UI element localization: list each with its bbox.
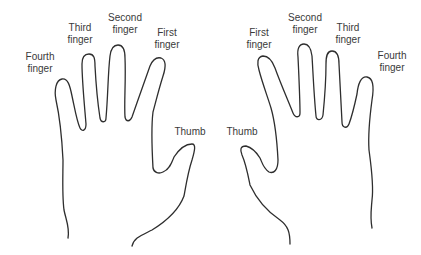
label-text: finger	[146, 39, 188, 51]
label-left-thumb: Thumb	[170, 126, 210, 138]
label-left-second-finger: Second finger	[102, 12, 148, 36]
label-text: finger	[60, 34, 100, 46]
label-text: Second	[282, 12, 328, 24]
label-text: finger	[238, 39, 280, 51]
label-text: Fourth	[20, 51, 60, 63]
label-text: First	[238, 27, 280, 39]
label-left-third-finger: Third finger	[60, 22, 100, 46]
hands-diagram: Fourth finger Third finger Second finger…	[0, 0, 421, 255]
label-text: finger	[370, 62, 414, 74]
label-right-third-finger: Third finger	[328, 22, 368, 46]
label-text: finger	[20, 63, 60, 75]
label-text: Second	[102, 12, 148, 24]
label-text: Thumb	[222, 126, 262, 138]
label-text: finger	[282, 24, 328, 36]
label-text: First	[146, 27, 188, 39]
label-text: Thumb	[170, 126, 210, 138]
label-text: Third	[60, 22, 100, 34]
label-left-first-finger: First finger	[146, 27, 188, 51]
label-text: finger	[102, 24, 148, 36]
right-hand-outline	[241, 44, 373, 244]
label-right-thumb: Thumb	[222, 126, 262, 138]
label-text: finger	[328, 34, 368, 46]
label-text: Third	[328, 22, 368, 34]
label-right-second-finger: Second finger	[282, 12, 328, 36]
label-right-first-finger: First finger	[238, 27, 280, 51]
left-hand-outline	[55, 45, 194, 246]
label-right-fourth-finger: Fourth finger	[370, 50, 414, 74]
label-left-fourth-finger: Fourth finger	[20, 51, 60, 75]
label-text: Fourth	[370, 50, 414, 62]
